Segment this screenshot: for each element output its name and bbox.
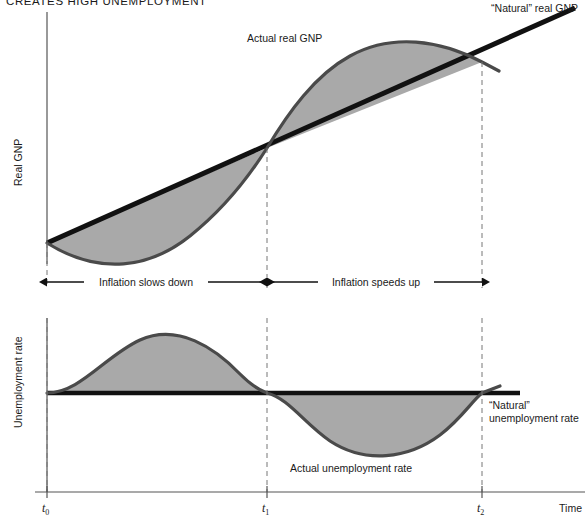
time-axis: t0 t1 t2 Time [35,486,585,517]
span-right-label: Inflation speeds up [332,276,420,288]
time-tick-label-t1: t1 [262,501,269,517]
natural-unemployment-label-line1: “Natural” [489,399,530,411]
actual-real-gnp-label: Actual real GNP [247,32,322,44]
lower-shaded-region-right [267,393,482,456]
upper-y-axis-label: Real GNP [12,139,24,186]
lower-shaded-region-left [47,334,267,393]
natural-unemployment-label-line2: unemployment rate [489,412,579,424]
time-tick-label-t2: t2 [477,501,484,517]
time-tick-t0-sub: 0 [45,508,49,517]
time-tick-t1-sub: 1 [265,508,269,517]
natural-real-gnp-label: “Natural” real GNP [491,2,578,14]
upper-shaded-region-left [47,148,267,264]
upper-chart-panel: Real GNP Actual real GNP “Natural” real … [12,2,578,288]
span-left-label: Inflation slows down [99,276,193,288]
lower-chart-panel: Unemployment rate Actual unemployment ra… [12,318,579,492]
time-axis-label: Time [559,502,582,514]
time-tick-label-t0: t0 [42,501,49,517]
figure-canvas: Real GNP Actual real GNP “Natural” real … [0,0,588,522]
lower-y-axis-label: Unemployment rate [12,336,24,428]
actual-unemployment-label: Actual unemployment rate [290,462,412,474]
inflation-annotation-band: Inflation slows down Inflation speeds up [47,274,482,290]
economics-figure: CREATES HIGH UNEMPLOYMENT [0,0,588,522]
time-tick-t2-sub: 2 [480,508,484,517]
